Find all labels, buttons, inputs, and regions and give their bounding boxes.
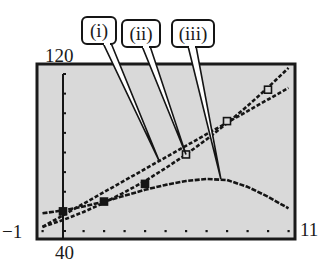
- data-point: [142, 180, 149, 187]
- chart: (i)(ii)(iii) 120 −1 11 40: [0, 0, 325, 264]
- x-tick-dot: [267, 230, 269, 232]
- x-tick-dot: [247, 230, 249, 232]
- ymin-label: 40: [55, 242, 74, 263]
- x-tick-dot: [42, 230, 44, 232]
- x-tick-dot: [206, 230, 208, 232]
- x-tick-dot: [165, 230, 167, 232]
- data-point: [224, 118, 231, 125]
- x-tick-dot: [144, 230, 146, 232]
- data-point: [60, 208, 67, 215]
- callout-join: [143, 45, 149, 48]
- data-point: [101, 198, 108, 205]
- xmax-label: 11: [300, 219, 318, 240]
- screen-background: [37, 64, 295, 239]
- x-tick-dot: [185, 230, 187, 232]
- x-tick-dot: [226, 230, 228, 232]
- callout-join: [189, 45, 195, 48]
- x-tick-dot: [288, 230, 290, 232]
- callout-label: (iii): [179, 23, 208, 45]
- data-point: [265, 86, 272, 93]
- x-tick-dot: [103, 230, 105, 232]
- xmin-label: −1: [2, 221, 22, 242]
- x-tick-dot: [83, 230, 85, 232]
- x-tick-dot: [124, 230, 126, 232]
- callout-join: [104, 42, 110, 45]
- callout-label: (ii): [129, 23, 152, 45]
- callout-label: (i): [90, 20, 108, 42]
- ymax-label: 120: [45, 45, 74, 66]
